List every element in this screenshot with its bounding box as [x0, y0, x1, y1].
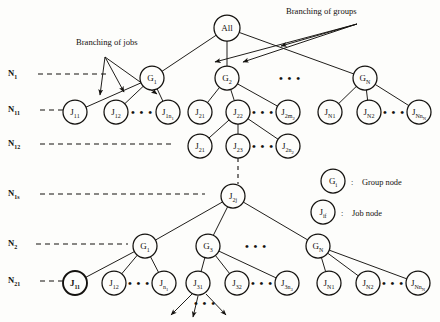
node-j12-lvl2[interactable]: J12 [102, 271, 126, 295]
edge-gn-lvl1-to-jn2 [366, 90, 367, 100]
node-g1-lvl2[interactable]: G1 [133, 234, 157, 258]
edge-j2j-to-g3-lvl2 [213, 207, 227, 236]
ellipsis-jbot-mid: • • • [251, 277, 273, 289]
ellipsis-top-row: • • • [279, 72, 301, 84]
figure-canvas: AllG1G2GNJ11J12J1n1J21J22J2m2JN1JN2JNnNJ… [0, 0, 440, 322]
ellipsis-jbot-right: • • • [382, 277, 404, 289]
edge-gn-lvl1-to-jn1 [339, 86, 357, 103]
node-jn1[interactable]: JN1 [318, 100, 342, 124]
level-label-n1: N1 [8, 68, 17, 80]
legend-group-node: Gi:Group node [321, 169, 402, 193]
legend: Gi:Group nodeJif:Job node [311, 169, 402, 224]
edge-gn-lvl1-to-jnnn [375, 84, 409, 105]
ellipsis-j2-row: • • • [252, 106, 274, 118]
pointer-arrow-jobs-arrow-1 [100, 57, 105, 95]
legend-group-node-text: Group node [362, 178, 402, 187]
node-jn1-bot[interactable]: JN1 [317, 271, 341, 295]
legend-job-node-text: Job node [352, 209, 382, 218]
level-label-n12: N12 [8, 138, 20, 150]
edge-root-all-to-g1-lvl1 [162, 35, 216, 71]
edge-g3-lvl2-to-j32 [215, 255, 229, 273]
node-g2-lvl1[interactable]: G2 [215, 66, 239, 90]
annotation-branching-of-jobs: Branching of jobs [76, 37, 138, 47]
ellipsis-jbot-left: • • • [128, 277, 150, 289]
edge-j22-to-j2n2 [248, 119, 278, 140]
node-jn2-bot[interactable]: JN2 [356, 271, 380, 295]
node-j31[interactable]: J31 [186, 271, 210, 295]
legend-job-node-separator: : [341, 209, 343, 218]
pointer-arrow-groups-arrow-3 [281, 24, 357, 46]
node-j2j[interactable]: J2j [221, 184, 245, 208]
level-label-n11: N11 [8, 104, 20, 116]
terminal-arrow-left [171, 294, 192, 315]
level-label-n1s: N1s [8, 188, 20, 200]
node-j1n1[interactable]: J1n1 [156, 100, 180, 124]
legend-group-node-separator: : [351, 178, 353, 187]
node-g1-lvl1[interactable]: G1 [140, 66, 164, 90]
node-j3n3[interactable]: J3n3 [275, 271, 299, 295]
pointer-arrow-groups-arrow-2 [243, 24, 357, 62]
edge-g3-lvl2-to-j31 [201, 258, 205, 272]
node-jn2[interactable]: JN2 [357, 100, 381, 124]
node-j11[interactable]: J11 [63, 100, 87, 124]
annotation-branching-of-groups: Branching of groups [286, 6, 357, 16]
legend-job-node: Jif:Job node [311, 200, 382, 224]
node-j22[interactable]: J22 [226, 100, 250, 124]
edge-root-all-to-gn-lvl1 [239, 32, 353, 73]
edge-g1-lvl2-to-j12-lvl2 [122, 255, 138, 274]
ellipsis-jn-row: • • • [383, 106, 405, 118]
edge-g2-lvl1-to-j22 [231, 89, 235, 100]
pointer-arrow-jobs-arrow-2 [105, 57, 124, 92]
tree-diagram-svg: AllG1G2GNJ11J12J1n1J21J22J2m2JN1JN2JNnNJ… [0, 0, 440, 322]
level-label-n2: N2 [8, 238, 17, 250]
ellipsis-j2sub-row: • • • [252, 140, 274, 152]
node-j2n2[interactable]: J2n2 [276, 134, 300, 158]
ellipsis-group-lvl2: • • • [245, 240, 267, 252]
edge-j22-to-j21-b [209, 120, 229, 138]
node-jnnn[interactable]: JNnN [407, 100, 431, 124]
node-jn1-lvl2[interactable]: Jn1 [152, 271, 176, 295]
node-gn-lvl2[interactable]: GN [306, 234, 330, 258]
level-label-n21: N21 [8, 275, 20, 287]
node-label-root-all: All [221, 23, 233, 33]
node-j21-a[interactable]: J21 [188, 100, 212, 124]
edge-j2j-to-gn-lvl2 [243, 202, 307, 240]
node-gn-lvl1[interactable]: GN [353, 66, 377, 90]
edge-g3-lvl2-to-j3n3 [219, 251, 276, 278]
node-g3-lvl2[interactable]: G3 [196, 234, 220, 258]
node-j32[interactable]: J32 [225, 271, 249, 295]
node-j23[interactable]: J23 [226, 134, 250, 158]
edge-g1-lvl1-to-j1n1 [157, 89, 163, 101]
tree-nodes: AllG1G2GNJ11J12J1n1J21J22J2m2JN1JN2JNnNJ… [63, 15, 431, 295]
node-jnnn-bot[interactable]: JNnN [406, 271, 430, 295]
ellipsis-j1-row: • • • [131, 106, 153, 118]
node-j2m2[interactable]: J2m2 [276, 100, 300, 124]
ellipsis-terminal-arrows: • • • [194, 297, 216, 309]
edge-gn-lvl2-to-jn1-bot [321, 258, 325, 272]
node-root-all[interactable]: All [214, 15, 240, 41]
edge-g2-lvl1-to-j21-a [207, 87, 219, 102]
edge-g1-lvl2-to-jn1-lvl2 [150, 257, 158, 273]
node-j12[interactable]: J12 [104, 100, 128, 124]
node-j11-bold[interactable]: J11 [63, 271, 87, 295]
node-j21-b[interactable]: J21 [188, 134, 212, 158]
level-label-texts: N1N11N12N1sN2N21 [8, 68, 20, 287]
